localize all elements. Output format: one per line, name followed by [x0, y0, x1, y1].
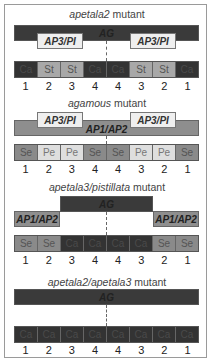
organ-cell: St: [38, 62, 61, 77]
organ-cell: Ca: [176, 62, 198, 77]
whorl-number: 4: [107, 254, 130, 266]
organ-cell: Pe: [153, 145, 176, 160]
whorl-number: 1: [14, 254, 37, 266]
whorl-number: 3: [60, 344, 83, 356]
whorl-number: 2: [37, 254, 60, 266]
panel-title-apetala2: apetala2 mutant: [0, 8, 214, 20]
whorl-number: 2: [153, 254, 176, 266]
organ-cell: Ca: [107, 327, 130, 342]
whorl-number: 4: [83, 80, 106, 92]
organ-row: Se Se Ca Ca Ca Ca Se Se: [14, 235, 199, 252]
whorl-number: 2: [153, 344, 176, 356]
center-divider: [106, 212, 107, 235]
whorl-number: 4: [83, 344, 106, 356]
organ-cell: Pe: [38, 145, 61, 160]
whorl-numbers: 1 2 3 4 4 3 2 1: [14, 254, 199, 266]
gene-bar-ap1-ap2-right: AP1/AP2: [153, 211, 199, 227]
organ-row: Ca St St Ca Ca St St Ca: [14, 61, 199, 78]
organ-cell: Ca: [107, 62, 130, 77]
organ-cell: Se: [15, 236, 38, 251]
organ-cell: Ca: [84, 236, 107, 251]
organ-cell: Pe: [130, 145, 153, 160]
organ-cell: Se: [107, 145, 130, 160]
gene-bar-ap3-pi-left: AP3/PI: [37, 33, 83, 49]
gene-bar-ap3-pi-right: AP3/PI: [130, 33, 176, 49]
whorl-number: 4: [107, 163, 130, 175]
whorl-number: 1: [14, 163, 37, 175]
whorl-number: 4: [83, 254, 106, 266]
gene-bar-ap1-ap2-left: AP1/AP2: [14, 211, 60, 227]
whorl-number: 1: [14, 80, 37, 92]
center-divider: [106, 136, 107, 144]
whorl-number: 3: [130, 344, 153, 356]
whorl-number: 2: [153, 80, 176, 92]
center-divider: [106, 41, 107, 61]
organ-cell: Ca: [38, 327, 61, 342]
whorl-number: 4: [83, 163, 106, 175]
organ-cell: Pe: [61, 145, 84, 160]
organ-cell: St: [153, 62, 176, 77]
whorl-number: 3: [60, 163, 83, 175]
whorl-number: 3: [60, 80, 83, 92]
organ-cell: Ca: [84, 62, 107, 77]
whorl-numbers: 1 2 3 4 4 3 2 1: [14, 163, 199, 175]
whorl-number: 2: [37, 344, 60, 356]
gene-bar-ap3-pi-left: AP3/PI: [37, 112, 83, 128]
organ-cell: Ca: [84, 327, 107, 342]
whorl-number: 1: [176, 163, 199, 175]
organ-cell: Ca: [176, 327, 198, 342]
whorl-number: 4: [107, 80, 130, 92]
whorl-number: 1: [14, 344, 37, 356]
organ-cell: Ca: [61, 236, 84, 251]
organ-cell: Ca: [15, 62, 38, 77]
center-divider: [106, 305, 107, 326]
whorl-number: 2: [37, 163, 60, 175]
organ-row: Se Pe Pe Se Se Pe Pe Se: [14, 144, 199, 161]
panel-title-apetala2-apetala3: apetala2/apetala3 mutant: [0, 276, 214, 288]
organ-row: Ca Ca Ca Ca Ca Ca Ca Ca: [14, 326, 199, 343]
organ-cell: Se: [15, 145, 38, 160]
organ-cell: Ca: [153, 327, 176, 342]
whorl-numbers: 1 2 3 4 4 3 2 1: [14, 80, 199, 92]
organ-cell: Ca: [130, 327, 153, 342]
gene-bar-ag: AG: [14, 289, 199, 305]
whorl-number: 3: [60, 254, 83, 266]
gene-bar-ag: AG: [60, 196, 153, 212]
whorl-number: 1: [176, 254, 199, 266]
organ-cell: Se: [153, 236, 176, 251]
organ-cell: Ca: [15, 327, 38, 342]
organ-cell: Ca: [130, 236, 153, 251]
whorl-number: 4: [107, 344, 130, 356]
gene-bar-ap3-pi-right: AP3/PI: [130, 112, 176, 128]
organ-cell: St: [130, 62, 153, 77]
whorl-number: 3: [130, 80, 153, 92]
whorl-number: 1: [176, 80, 199, 92]
organ-cell: St: [61, 62, 84, 77]
whorl-number: 3: [130, 254, 153, 266]
panel-title-agamous: agamous mutant: [0, 97, 214, 109]
whorl-number: 2: [153, 163, 176, 175]
whorl-number: 2: [37, 80, 60, 92]
whorl-numbers: 1 2 3 4 4 3 2 1: [14, 344, 199, 356]
whorl-number: 1: [176, 344, 199, 356]
panel-title-apetala3-pistillata: apetala3/pistillata mutant: [0, 181, 214, 193]
organ-cell: Se: [84, 145, 107, 160]
organ-cell: Ca: [61, 327, 84, 342]
whorl-number: 3: [130, 163, 153, 175]
organ-cell: Se: [38, 236, 61, 251]
organ-cell: Ca: [107, 236, 130, 251]
organ-cell: Se: [176, 145, 198, 160]
organ-cell: Se: [176, 236, 198, 251]
